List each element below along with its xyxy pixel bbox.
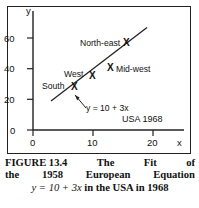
caption-word-equation: Equation (153, 169, 195, 181)
x-tick-label-0: 0 (30, 137, 35, 148)
y-tick-label-40: 40 (4, 63, 15, 74)
figure-caption: FIGURE 13.4 The Fit of the 1958 European… (5, 157, 195, 194)
y-tick-label-60: 60 (4, 33, 15, 44)
caption-word-the2: the (5, 169, 19, 181)
caption-equation: y = 10 + 3x (31, 182, 81, 193)
caption-word-european: European (86, 169, 131, 181)
y-tick-label-0: 0 (10, 125, 15, 136)
data-point-label-south: South (42, 81, 64, 91)
caption-equation-rest: in the USA in 1968 (84, 182, 168, 193)
usa-year-note: USA 1968 (122, 114, 163, 124)
data-point-marker-south: X (71, 82, 78, 92)
x-tick-label-20: 20 (147, 137, 158, 148)
caption-line-2: the 1958 European Equation (5, 169, 195, 181)
figure-container: 0 20 40 60 0 10 20 y x X North-east X Mi… (0, 0, 199, 208)
y-tick-label-20: 20 (4, 94, 15, 105)
caption-word-the: The (97, 157, 115, 169)
caption-line-3: y = 10 + 3x in the USA in 1968 (5, 182, 195, 194)
data-point-marker-north-east: X (123, 38, 130, 48)
caption-word-1958: 1958 (42, 169, 63, 181)
y-axis-label: y (26, 5, 31, 16)
x-axis-label: x (177, 137, 182, 148)
caption-word-of: of (186, 157, 195, 169)
data-point-label-north-east: North-east (80, 38, 120, 48)
x-tick-label-10: 10 (87, 137, 98, 148)
caption-figure-number: FIGURE 13.4 (5, 157, 67, 169)
caption-word-fit: Fit (144, 157, 157, 169)
data-point-marker-west: X (89, 71, 96, 81)
data-point-label-mid-west: Mid-west (116, 64, 150, 74)
caption-line-1: FIGURE 13.4 The Fit of (5, 157, 195, 169)
data-point-label-west: West (64, 69, 83, 79)
data-point-marker-mid-west: X (107, 63, 114, 73)
plot-area: 0 20 40 60 0 10 20 y x X North-east X Mi… (7, 6, 191, 154)
plot-canvas (8, 7, 189, 152)
fit-equation-annotation: y = 10 + 3x (86, 103, 129, 113)
